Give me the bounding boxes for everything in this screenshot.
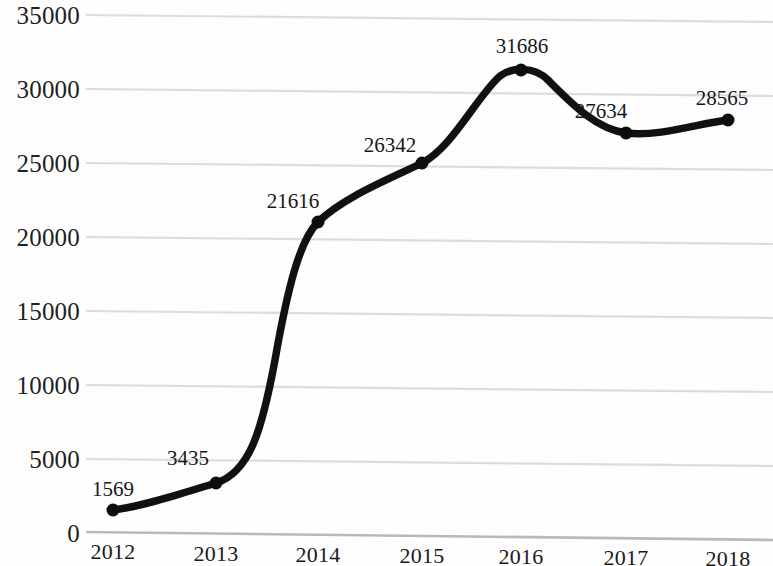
- y-tick-label-10000: 10000: [0, 373, 80, 398]
- x-tick-label-2017: 2017: [578, 547, 674, 566]
- data-label-2012: 1569: [68, 479, 158, 500]
- data-label-2015: 26342: [340, 135, 440, 156]
- data-label-2016: 31686: [472, 36, 572, 57]
- y-tick-label-5000: 5000: [0, 447, 80, 472]
- x-tick-label-2018: 2018: [680, 548, 773, 566]
- data-label-2017: 27634: [551, 101, 651, 122]
- gridlines: [86, 15, 773, 466]
- x-tick-label-2014: 2014: [270, 544, 366, 566]
- y-tick-label-30000: 30000: [0, 77, 80, 102]
- data-label-2014: 21616: [243, 191, 343, 212]
- x-axis-line: [86, 532, 773, 540]
- y-tick-label-25000: 25000: [0, 151, 80, 176]
- data-label-2018: 28565: [672, 88, 772, 109]
- x-tick-label-2015: 2015: [374, 545, 470, 566]
- y-tick-label-35000: 35000: [0, 3, 80, 28]
- x-tick-label-2013: 2013: [168, 543, 264, 565]
- x-tick-label-2012: 2012: [65, 541, 161, 563]
- line-chart: 35000 30000 25000 20000 15000 10000 5000…: [0, 0, 773, 566]
- y-tick-label-20000: 20000: [0, 225, 80, 250]
- y-tick-label-15000: 15000: [0, 299, 80, 324]
- data-label-2013: 3435: [143, 448, 233, 469]
- x-tick-label-2016: 2016: [473, 546, 569, 566]
